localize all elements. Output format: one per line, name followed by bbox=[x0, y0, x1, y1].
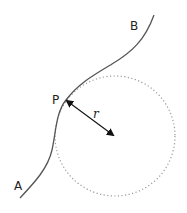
curve-a-to-b bbox=[20, 15, 154, 198]
label-r: r bbox=[93, 107, 100, 121]
label-p: P bbox=[52, 93, 59, 107]
label-b: B bbox=[130, 19, 138, 33]
label-a: A bbox=[14, 179, 23, 193]
radius-arrow bbox=[67, 101, 113, 135]
osculating-circle-diagram: A B P r bbox=[0, 0, 187, 213]
osculating-circle bbox=[55, 76, 175, 196]
